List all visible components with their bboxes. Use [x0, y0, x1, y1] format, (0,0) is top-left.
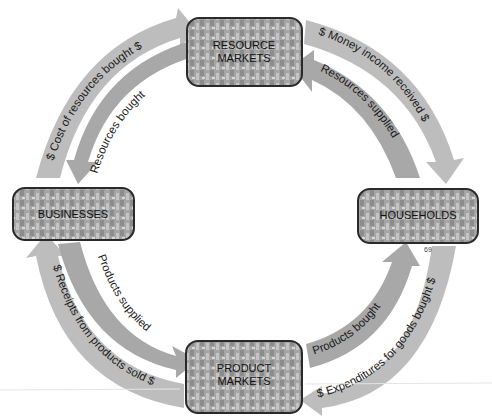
page-number: 69 [424, 246, 432, 253]
households-label: HOUSEHOLDS [379, 209, 456, 221]
resource-markets-label-2: MARKETS [217, 52, 270, 64]
circular-flow-diagram: $ Cost of resources bought $ Resources b… [0, 0, 492, 416]
arrow-money-income [304, 20, 464, 184]
node-households: HOUSEHOLDS [358, 189, 478, 243]
node-resource-markets: RESOURCE MARKETS [187, 18, 302, 86]
resource-markets-label-1: RESOURCE [213, 39, 275, 51]
product-markets-label-2: MARKETS [217, 375, 270, 387]
businesses-label: BUSINESSES [38, 208, 108, 220]
product-markets-label-1: PRODUCT [217, 362, 272, 374]
arrow-resources-supplied [292, 50, 420, 178]
node-businesses: BUSINESSES [13, 188, 134, 240]
node-product-markets: PRODUCT MARKETS [186, 341, 302, 413]
